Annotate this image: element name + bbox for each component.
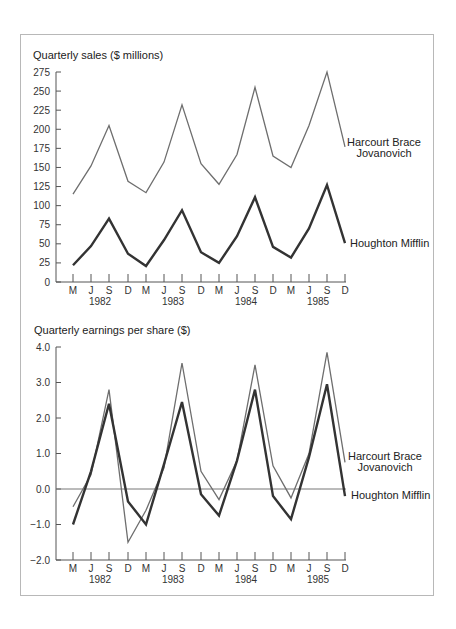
y-tick-label: 250	[33, 86, 50, 97]
x-tick-label: M	[69, 285, 77, 296]
y-tick-label: −2.0	[30, 555, 50, 566]
y-tick-label: 3.0	[36, 377, 50, 388]
sales-line-houghton-mifflin	[73, 185, 345, 266]
year-label: 1983	[162, 296, 185, 307]
x-tick-label: S	[324, 563, 331, 574]
x-tick-label: J	[235, 563, 240, 574]
x-tick-label: M	[215, 563, 223, 574]
x-tick-label: J	[162, 563, 167, 574]
y-tick-label: 50	[39, 238, 51, 249]
x-tick-label: J	[307, 285, 312, 296]
year-label: 1982	[89, 574, 112, 585]
sales-chart: Quarterly sales ($ millions) 02550751001…	[33, 49, 429, 307]
y-tick-label: 150	[33, 162, 50, 173]
eps-legend-hm: Houghton Mifflin	[351, 489, 430, 501]
y-tick-label: 4.0	[36, 342, 50, 353]
x-tick-label: D	[197, 285, 204, 296]
x-tick-label: D	[341, 563, 348, 574]
y-tick-label: 75	[39, 219, 51, 230]
x-tick-label: J	[89, 563, 94, 574]
eps-line-harcourt-brace-jovanovich	[73, 352, 345, 542]
x-tick-label: D	[197, 563, 204, 574]
x-tick-label: S	[106, 563, 113, 574]
y-tick-label: 225	[33, 105, 50, 116]
x-tick-label: J	[235, 285, 240, 296]
eps-line-houghton-mifflin	[73, 384, 345, 524]
x-tick-label: M	[287, 563, 295, 574]
year-label: 1984	[235, 574, 258, 585]
sales-legend-hbj-line2: Jovanovich	[356, 147, 411, 159]
x-tick-label: S	[179, 285, 186, 296]
x-tick-label: M	[215, 285, 223, 296]
year-label: 1985	[307, 296, 330, 307]
x-tick-label: S	[252, 285, 259, 296]
eps-chart-title: Quarterly earnings per share ($)	[34, 324, 191, 336]
y-tick-label: 275	[33, 67, 50, 78]
sales-legend-hm: Houghton Mifflin	[350, 237, 429, 249]
y-tick-label: −1.0	[30, 519, 50, 530]
sales-x-axis: MJSDMJSDMJSDMJSD1982198319841985	[56, 274, 349, 307]
y-tick-label: 0.0	[36, 484, 50, 495]
y-tick-label: 0	[44, 277, 50, 288]
x-tick-label: M	[287, 285, 295, 296]
sales-line-harcourt-brace-jovanovich	[73, 72, 345, 194]
year-label: 1982	[89, 296, 112, 307]
x-tick-label: M	[142, 285, 150, 296]
eps-chart: Quarterly earnings per share ($) −2.0−1.…	[30, 324, 430, 585]
x-tick-label: J	[162, 285, 167, 296]
x-tick-label: J	[89, 285, 94, 296]
y-tick-label: 25	[39, 257, 51, 268]
x-tick-label: J	[307, 563, 312, 574]
x-tick-label: S	[179, 563, 186, 574]
sales-y-axis: 0255075100125150175200225250275	[33, 67, 61, 288]
eps-legend-hbj-line2: Jovanovich	[357, 461, 412, 473]
eps-y-axis: −2.0−1.00.01.02.03.04.0	[30, 342, 61, 566]
x-tick-label: S	[324, 285, 331, 296]
y-tick-label: 100	[33, 200, 50, 211]
x-tick-label: S	[106, 285, 113, 296]
x-tick-label: D	[124, 563, 131, 574]
y-tick-label: 125	[33, 181, 50, 192]
y-tick-label: 2.0	[36, 413, 50, 424]
year-label: 1984	[235, 296, 258, 307]
sales-chart-title: Quarterly sales ($ millions)	[33, 49, 163, 61]
x-tick-label: S	[252, 563, 259, 574]
x-tick-label: D	[341, 285, 348, 296]
y-tick-label: 175	[33, 143, 50, 154]
x-tick-label: D	[269, 285, 276, 296]
y-tick-label: 1.0	[36, 448, 50, 459]
x-tick-label: M	[69, 563, 77, 574]
eps-x-axis: MJSDMJSDMJSDMJSD1982198319841985	[56, 552, 349, 585]
x-tick-label: M	[142, 563, 150, 574]
y-tick-label: 200	[33, 124, 50, 135]
chart-canvas: Quarterly sales ($ millions) 02550751001…	[0, 0, 456, 629]
x-tick-label: D	[124, 285, 131, 296]
year-label: 1983	[162, 574, 185, 585]
x-tick-label: D	[269, 563, 276, 574]
year-label: 1985	[307, 574, 330, 585]
